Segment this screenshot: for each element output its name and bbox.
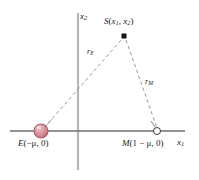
satellite-label: S(x1, x2): [104, 17, 133, 27]
satellite-marker: [122, 34, 127, 39]
moon-label-coords: (1 − μ, 0): [130, 138, 164, 148]
earth-label: E(−μ, 0): [18, 139, 48, 148]
moon-marker: [154, 128, 161, 135]
axis-label-x1-sub: 1: [181, 140, 184, 147]
earth-marker: [34, 124, 48, 138]
r-moon-label: rM: [145, 78, 153, 87]
r-earth-label: rE: [87, 48, 94, 57]
r-earth-label-sub: E: [90, 50, 94, 56]
r-moon-label-sub: M: [148, 80, 153, 86]
moon-label: M(1 − μ, 0): [122, 139, 163, 148]
r-earth-dashed-line: [44, 39, 122, 128]
axis-label-x2: x2: [80, 12, 87, 22]
earth-label-coords: (−μ, 0): [24, 138, 49, 148]
satellite-label-paren-close: ): [130, 16, 133, 26]
axis-label-x2-sub: 2: [84, 14, 87, 21]
axis-label-x1: x1: [177, 138, 184, 148]
three-body-diagram: x2 x1 S(x1, x2) E(−μ, 0) M(1 − μ, 0) rE …: [0, 0, 199, 180]
earth-leader-tick: [46, 119, 52, 126]
moon-label-name: M: [122, 138, 130, 148]
diagram-canvas: [0, 0, 199, 180]
earth-highlight: [36, 126, 41, 130]
moon-leader-tick: [151, 121, 155, 127]
